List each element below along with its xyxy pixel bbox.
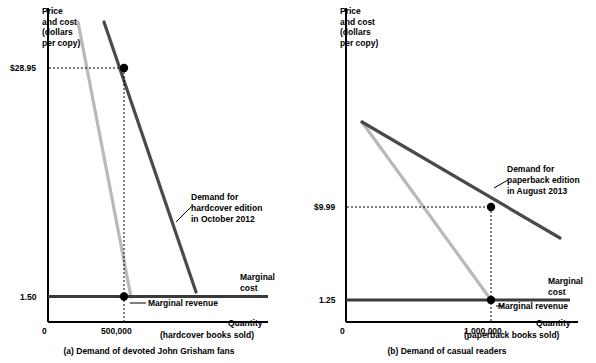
panel-a-x-axis-sublabel: (hardcover books sold) [160,330,254,341]
panel-a-demand-annotation: Demand for hardcover edition in October … [191,192,262,225]
panel-b-marginal-revenue-annotation: Marginal revenue [498,301,568,312]
panel-a-caption: (a) Demand of devoted John Grisham fans [0,346,298,356]
panel-a-y-tick-cost: 1.50 [20,292,37,302]
panel-a-demand-leader [176,206,192,222]
panel-a-y-axis-label: Price and cost (dollars per copy) [42,6,80,48]
panel-b-marginal-revenue-line [362,122,491,300]
figure-container: Price and cost (dollars per copy) $28.95… [0,0,596,363]
panel-b-y-tick-cost: 1.25 [319,295,336,305]
panel-a-x-axis-label: Quantity [228,318,262,329]
panel-b-marginal-cost-annotation: Marginal cost [548,276,583,298]
panel-a-marginal-cost-annotation: Marginal cost [240,272,275,294]
panel-a-x-tick-quantity: 500,000 [101,326,132,336]
panel-a: Price and cost (dollars per copy) $28.95… [0,0,298,363]
panel-a-y-tick-price: $28.95 [10,63,36,73]
panel-b-x-axis-label: Quantity [536,318,570,329]
panel-a-demand-line [104,22,196,292]
panel-b-price-point-dot [487,203,495,211]
panel-b-demand-annotation: Demand for paperback edition in August 2… [507,164,580,197]
panel-a-marginal-revenue-line [78,22,131,297]
panel-b-mr-mc-point-dot [487,296,495,304]
panel-b-demand-leader [494,180,508,188]
panel-b-y-axis-label: Price and cost (dollars per copy) [340,6,378,48]
panel-b-origin-label: 0 [340,326,345,336]
panel-b-caption: (b) Demand of casual readers [298,346,596,356]
panel-b-x-axis-sublabel: (paperback books sold) [464,330,559,341]
panel-b-y-tick-price: $9.99 [314,202,335,212]
panel-b: Price and cost (dollars per copy) $9.99 … [298,0,596,363]
panel-a-mr-mc-point-dot [120,292,128,300]
panel-a-price-point-dot [120,64,128,72]
panel-a-origin-label: 0 [42,326,47,336]
panel-a-marginal-revenue-annotation: Marginal revenue [148,298,218,309]
